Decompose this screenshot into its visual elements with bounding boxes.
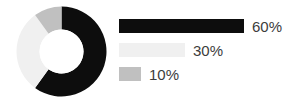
legend-swatch-30 xyxy=(119,43,185,57)
donut-chart-svg xyxy=(14,4,109,99)
legend-label-60: 60% xyxy=(252,19,282,34)
legend-item-60[interactable]: 60% xyxy=(119,18,282,34)
donut-chart xyxy=(14,4,109,99)
legend-item-30[interactable]: 30% xyxy=(119,42,223,58)
donut-hole xyxy=(40,30,84,74)
legend-label-30: 30% xyxy=(193,43,223,58)
donut-chart-figure: 60% 30% 10% xyxy=(0,0,307,103)
legend-label-10: 10% xyxy=(149,67,179,82)
legend-swatch-60 xyxy=(119,19,244,33)
legend-item-10[interactable]: 10% xyxy=(119,66,179,82)
chart-legend: 60% 30% 10% xyxy=(119,16,307,88)
legend-swatch-10 xyxy=(119,67,141,81)
